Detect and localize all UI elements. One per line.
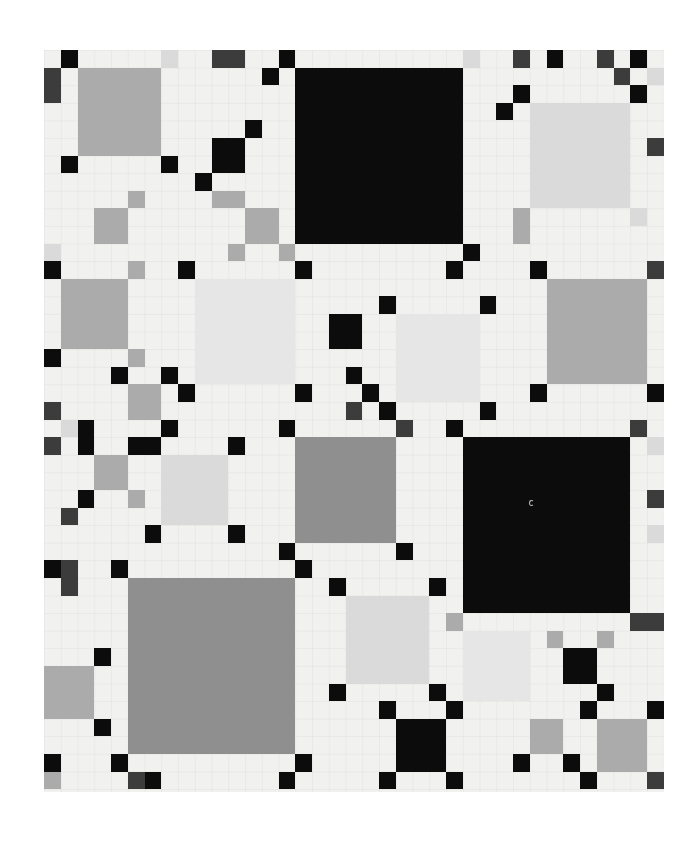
black-block xyxy=(178,384,195,402)
black-block xyxy=(379,772,396,790)
black-block xyxy=(379,701,396,719)
light-block xyxy=(647,525,664,543)
black-block xyxy=(295,560,312,578)
gray-block xyxy=(94,208,128,243)
black-block xyxy=(279,420,296,438)
gray-block xyxy=(61,279,128,349)
pale-block xyxy=(195,279,296,385)
gray-block xyxy=(44,772,61,790)
dark-block xyxy=(647,490,664,508)
light-block xyxy=(161,455,228,525)
black-block xyxy=(396,543,413,561)
gray-block xyxy=(128,261,145,279)
black-block xyxy=(513,754,530,772)
black-block xyxy=(513,85,530,103)
black-block xyxy=(44,349,61,367)
dark-block xyxy=(647,261,664,279)
black-block xyxy=(228,437,245,455)
black-block xyxy=(94,648,111,666)
black-block xyxy=(145,525,162,543)
dark-block xyxy=(647,138,664,156)
gray-block xyxy=(78,68,162,156)
black-block xyxy=(78,420,95,455)
light-block xyxy=(463,50,480,68)
light-block xyxy=(630,208,647,226)
black-block xyxy=(161,156,178,174)
black-block xyxy=(44,560,61,578)
black-block xyxy=(480,402,497,420)
black-block xyxy=(429,684,446,702)
black-block xyxy=(463,244,480,262)
light-block xyxy=(530,103,631,209)
gray-block xyxy=(94,455,128,490)
black-block xyxy=(580,772,597,790)
gray-block xyxy=(128,490,145,508)
gray-block xyxy=(128,191,145,209)
dark-block xyxy=(630,420,647,438)
dark-block xyxy=(44,402,61,420)
graydark-block xyxy=(295,437,396,543)
black-block xyxy=(446,261,463,279)
gray-block xyxy=(530,719,564,754)
black-block xyxy=(563,754,580,772)
gray-block xyxy=(513,208,530,243)
black-block xyxy=(61,156,78,174)
black-block xyxy=(44,261,61,279)
black-block xyxy=(295,384,312,402)
black-block xyxy=(94,719,111,737)
black-block xyxy=(161,420,178,438)
gray-block xyxy=(597,631,614,649)
black-block xyxy=(563,648,597,683)
black-block xyxy=(212,138,246,173)
black-block xyxy=(379,402,396,420)
black-block xyxy=(329,684,346,702)
gray-block xyxy=(128,384,162,419)
gray-block xyxy=(128,349,145,367)
black-block xyxy=(195,173,212,191)
painting-canvas xyxy=(44,50,664,792)
black-block xyxy=(295,261,312,279)
dark-block xyxy=(212,50,246,68)
light-block xyxy=(346,596,430,684)
paint-blemish-mark xyxy=(529,500,534,506)
black-block xyxy=(547,50,564,68)
black-block xyxy=(295,68,463,244)
black-block xyxy=(346,367,363,385)
dark-block xyxy=(614,68,631,86)
black-block xyxy=(128,437,162,455)
black-block xyxy=(111,754,128,772)
black-block xyxy=(61,50,78,68)
black-block xyxy=(480,296,497,314)
black-block xyxy=(262,68,279,86)
gray-block xyxy=(547,631,564,649)
gray-block xyxy=(228,244,245,262)
black-block xyxy=(530,384,547,402)
black-block xyxy=(279,543,296,561)
black-block xyxy=(295,754,312,772)
gray-block xyxy=(597,719,647,772)
dark-block xyxy=(396,420,413,438)
black-block xyxy=(396,719,446,772)
dark-block xyxy=(44,68,61,103)
black-block xyxy=(597,684,614,702)
black-block xyxy=(362,384,379,402)
graydark-block xyxy=(128,578,296,754)
black-block xyxy=(446,772,463,790)
dark-block xyxy=(44,437,61,455)
dark-block xyxy=(513,50,530,68)
light-block xyxy=(61,420,78,438)
black-block xyxy=(228,525,245,543)
gray-block xyxy=(245,208,279,243)
black-block xyxy=(580,701,597,719)
black-block xyxy=(446,420,463,438)
gray-block xyxy=(279,244,296,262)
gray-block xyxy=(212,191,246,209)
dark-block xyxy=(61,508,78,526)
pale-block xyxy=(463,631,530,701)
black-block xyxy=(78,490,95,508)
black-block xyxy=(530,261,547,279)
black-block xyxy=(647,384,664,402)
black-block xyxy=(161,367,178,385)
black-block xyxy=(44,754,61,772)
black-block xyxy=(279,772,296,790)
